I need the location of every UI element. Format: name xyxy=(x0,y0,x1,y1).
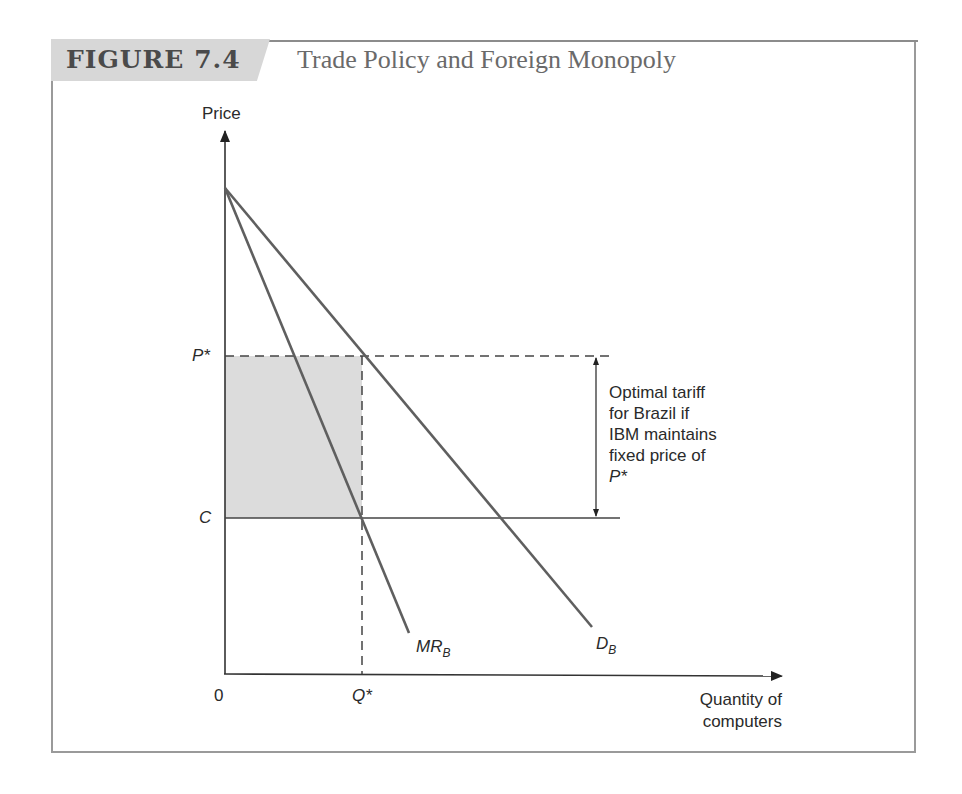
annotation-line-3: IBM maintains xyxy=(609,424,717,445)
y-axis-label: Price xyxy=(202,104,241,124)
mr-curve-label: MRB xyxy=(416,637,450,658)
mr-curve-label-main: MR xyxy=(416,637,442,656)
d-curve-label-main: D xyxy=(596,634,608,653)
annotation-line-5: P* xyxy=(609,466,717,487)
p-star-tick-label: P* xyxy=(192,346,210,366)
c-tick-label: C xyxy=(199,508,211,528)
x-axis-label: Quantity of computers xyxy=(675,689,782,733)
x-axis xyxy=(224,674,782,676)
annotation-line-1: Optimal tariff xyxy=(609,382,717,403)
tariff-annotation: Optimal tariff for Brazil if IBM maintai… xyxy=(609,382,717,487)
annotation-line-4: fixed price of xyxy=(609,445,717,466)
annotation-line-2: for Brazil if xyxy=(609,403,717,424)
chart-canvas xyxy=(0,0,962,794)
mr-curve-label-sub: B xyxy=(442,646,450,660)
d-curve-label-sub: B xyxy=(608,643,616,657)
origin-label: 0 xyxy=(214,686,223,706)
x-axis-label-line2: computers xyxy=(675,711,782,733)
x-axis-label-line1: Quantity of xyxy=(675,689,782,711)
d-curve-label: DB xyxy=(596,634,616,655)
tariff-revenue-area xyxy=(225,356,362,518)
q-star-tick-label: Q* xyxy=(352,686,372,706)
